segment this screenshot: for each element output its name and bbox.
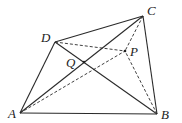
label-D: D [40,30,51,45]
segment-CD [55,16,143,42]
label-B: B [161,107,169,122]
label-C: C [147,3,156,18]
point-Q-dot [83,61,86,64]
vertex-dots [83,50,127,64]
label-A: A [7,106,16,121]
diagonal-DB [55,42,157,114]
geometry-diagram: A B C D P Q [0,0,182,123]
point-P-dot [124,50,127,53]
label-P: P [129,44,138,59]
diagonal-AC [20,16,143,113]
segment-AB [20,113,157,114]
label-Q: Q [66,55,76,70]
